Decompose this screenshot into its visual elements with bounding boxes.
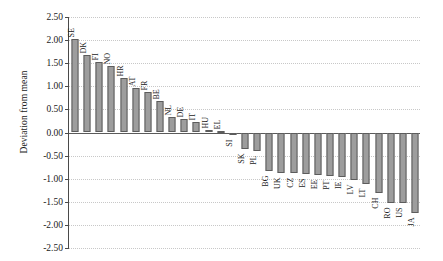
bar-group: UK	[275, 17, 287, 248]
bar	[108, 66, 115, 133]
bar-category-label: IE	[334, 181, 343, 189]
y-axis-tick-label: 0.00	[46, 128, 63, 138]
bar	[387, 133, 394, 203]
bar-category-label: FI	[92, 53, 101, 60]
bar-category-label: NL	[164, 105, 173, 116]
bar-group: PT	[324, 17, 336, 248]
bar-category-label: CH	[371, 197, 380, 208]
y-axis-tick-label: 2.00	[46, 35, 63, 45]
bar-category-label: AT	[128, 77, 137, 87]
bar-group: ES	[300, 17, 312, 248]
bar	[72, 39, 79, 133]
bar	[351, 133, 358, 181]
y-axis-tick-label: -2.00	[43, 220, 63, 230]
bar-category-label: PT	[322, 180, 331, 189]
bar	[399, 133, 406, 204]
bar-group: JA	[409, 17, 421, 248]
bar-category-label: BE	[152, 89, 161, 99]
bar-series: SEDKFINOHRATFRBENLDEITHUELSISKPLBGUKCZES…	[69, 17, 420, 248]
bar	[314, 133, 321, 176]
bar	[157, 101, 164, 133]
bar-category-label: SI	[225, 140, 234, 147]
bar	[290, 133, 297, 174]
y-axis-tick-label: 1.50	[46, 58, 63, 68]
bar-category-label: HU	[201, 117, 210, 129]
bar	[375, 133, 382, 193]
bar-group: CZ	[287, 17, 299, 248]
bar-group: LV	[348, 17, 360, 248]
bar-category-label: FR	[140, 81, 149, 91]
bar-category-label: IT	[189, 113, 198, 121]
bar-category-label: CZ	[286, 178, 295, 188]
bar	[193, 122, 200, 132]
bar-group: EL	[215, 17, 227, 248]
bar-group: HU	[203, 17, 215, 248]
bar	[84, 55, 91, 132]
bar	[241, 133, 248, 149]
bar-group: BE	[154, 17, 166, 248]
bar	[132, 88, 139, 132]
y-axis-tick-label: -1.00	[43, 174, 63, 184]
bar-category-label: DE	[177, 106, 186, 117]
y-axis-label: Deviation from mean	[19, 32, 29, 192]
bar	[278, 133, 285, 173]
bar	[229, 133, 236, 136]
bar-category-label: BG	[262, 176, 271, 187]
y-axis-tick-label: -2.50	[43, 243, 63, 253]
y-axis-tick-label: 1.00	[46, 81, 63, 91]
bar-category-label: LV	[347, 185, 356, 195]
bar-category-label: NO	[104, 53, 113, 65]
bar	[254, 133, 261, 151]
bar-category-label: ES	[298, 179, 307, 188]
bar-group: FR	[142, 17, 154, 248]
bar-group: DE	[178, 17, 190, 248]
bar-group: IE	[336, 17, 348, 248]
bar-category-label: DK	[79, 42, 88, 54]
bar	[302, 133, 309, 175]
gridline	[69, 248, 420, 249]
bar-group: AT	[130, 17, 142, 248]
bar	[326, 133, 333, 176]
plot-area: 2.502.001.501.000.500.00-0.50-1.00-1.50-…	[68, 17, 420, 248]
y-axis-tick-label: 0.50	[46, 104, 63, 114]
bar	[169, 117, 176, 132]
bar-group: NO	[105, 17, 117, 248]
bar	[339, 133, 346, 177]
y-axis-tick-label: -1.50	[43, 197, 63, 207]
bar-category-label: EL	[213, 120, 222, 130]
bar-category-label: SE	[67, 28, 76, 37]
bar-category-label: SK	[237, 153, 246, 163]
bar-group: SK	[239, 17, 251, 248]
bar	[411, 133, 418, 213]
bar	[144, 92, 151, 133]
bar-group: DK	[81, 17, 93, 248]
y-axis-tick	[65, 248, 69, 249]
bar	[205, 130, 212, 133]
bar-group: IT	[190, 17, 202, 248]
bar-group: EE	[312, 17, 324, 248]
bar-group: US	[397, 17, 409, 248]
bar-group: PL	[251, 17, 263, 248]
bar-category-label: RO	[383, 207, 392, 218]
bar	[120, 78, 127, 133]
bar-category-label: LT	[359, 189, 368, 198]
bar-category-label: HR	[116, 65, 125, 76]
deviation-bar-chart: Deviation from mean 2.502.001.501.000.50…	[0, 0, 443, 261]
bar-category-label: JA	[407, 217, 416, 226]
bar-category-label: PL	[249, 155, 258, 164]
bar	[363, 133, 370, 185]
bar-group: SI	[227, 17, 239, 248]
bar-group: BG	[263, 17, 275, 248]
bar	[181, 119, 188, 133]
bar	[217, 131, 224, 133]
bar-category-label: EE	[310, 180, 319, 190]
bar-category-label: UK	[274, 177, 283, 189]
bar-group: HR	[118, 17, 130, 248]
y-axis-tick-label: -0.50	[43, 151, 63, 161]
y-axis-tick-label: 2.50	[46, 12, 63, 22]
bar	[96, 62, 103, 133]
bar-group: LT	[360, 17, 372, 248]
bar-category-label: US	[395, 208, 404, 218]
bar-group: NL	[166, 17, 178, 248]
bar	[266, 133, 273, 172]
